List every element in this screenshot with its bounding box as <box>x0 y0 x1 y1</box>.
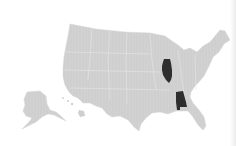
us-map <box>0 0 236 146</box>
state-alaska <box>22 91 66 129</box>
